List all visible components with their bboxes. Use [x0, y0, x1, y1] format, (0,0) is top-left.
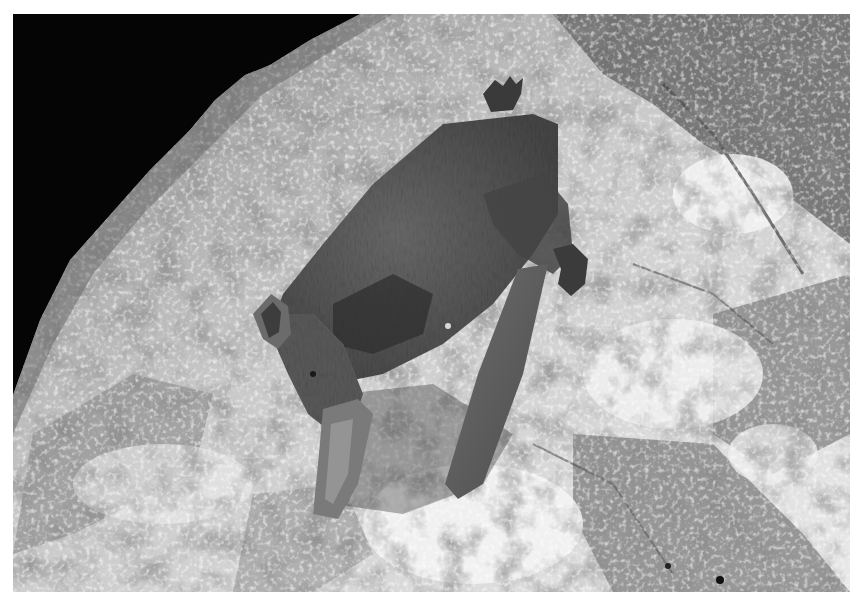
bat-on-rock-photo [13, 14, 850, 592]
photograph: Bat hanging on a lichen-covered boulder … [13, 14, 850, 592]
